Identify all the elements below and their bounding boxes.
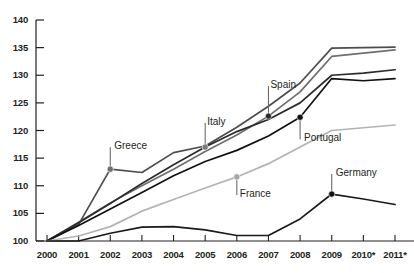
y-tick-label-130: 130 xyxy=(2,69,28,80)
x-tick-label-2011-est: 2011* xyxy=(375,249,414,260)
y-axis-ticks xyxy=(36,20,44,241)
line-chart: 100105110115120125130135140 200020012002… xyxy=(0,0,414,273)
chart-plot-area xyxy=(0,0,414,273)
y-tick-label-140: 140 xyxy=(2,14,28,25)
y-tick-label-105: 105 xyxy=(2,207,28,218)
series-label-france: France xyxy=(240,188,271,199)
series-label-italy: Italy xyxy=(207,116,225,127)
series-label-portugal: Portugal xyxy=(304,132,341,143)
y-tick-label-115: 115 xyxy=(2,152,28,163)
y-tick-label-110: 110 xyxy=(2,180,28,191)
marker-italy xyxy=(202,144,208,150)
series-line-germany xyxy=(47,194,395,241)
marker-portugal xyxy=(297,114,303,120)
series-line-portugal xyxy=(47,79,395,241)
data-series-lines xyxy=(47,47,395,241)
series-label-germany: Germany xyxy=(336,167,377,178)
series-label-spain: Spain xyxy=(270,79,296,90)
y-tick-label-135: 135 xyxy=(2,42,28,53)
marker-greece xyxy=(107,166,113,172)
y-tick-label-125: 125 xyxy=(2,97,28,108)
y-tick-label-120: 120 xyxy=(2,125,28,136)
marker-spain xyxy=(265,113,271,119)
series-label-greece: Greece xyxy=(114,140,147,151)
y-tick-label-100: 100 xyxy=(2,235,28,246)
marker-france xyxy=(234,174,240,180)
marker-germany xyxy=(329,191,335,197)
